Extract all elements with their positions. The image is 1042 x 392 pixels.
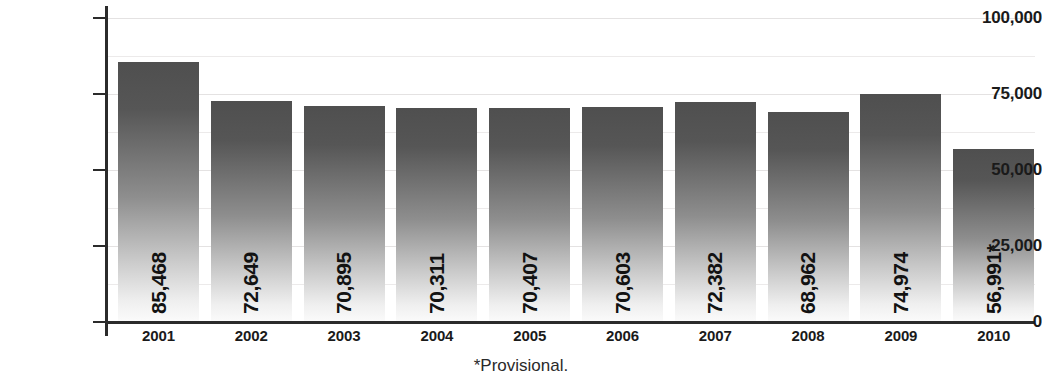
plot-area: 85,46872,64970,89570,31170,40770,60372,3… (107, 18, 1035, 322)
y-axis-tick (93, 169, 106, 171)
y-axis-tick (93, 321, 106, 323)
bar[interactable]: 68,962 (768, 112, 849, 322)
bar[interactable]: 74,974 (860, 94, 941, 322)
y-axis-tick-label: 100,000 (958, 9, 1042, 26)
x-axis-tick-label: 2010 (949, 328, 1039, 343)
bar[interactable]: 70,895 (304, 106, 385, 322)
x-axis-tick-label: 2004 (392, 328, 482, 343)
y-axis-tick (93, 245, 106, 247)
y-axis-tick-label: 50,000 (958, 161, 1042, 178)
x-axis-tick-label: 2006 (578, 328, 668, 343)
y-axis-tick-label: 25,000 (958, 237, 1042, 254)
y-axis-line (105, 6, 108, 336)
x-axis-line (107, 321, 1035, 324)
bar[interactable]: 72,649 (211, 101, 292, 322)
bar-chart: 85,46872,64970,89570,31170,40770,60372,3… (0, 0, 1042, 392)
x-axis-tick-label: 2002 (206, 328, 296, 343)
bar[interactable]: 70,603 (582, 107, 663, 322)
x-axis-tick-label: 2008 (763, 328, 853, 343)
x-axis-tick-label: 2001 (114, 328, 204, 343)
y-axis-tick (93, 93, 106, 95)
bar[interactable]: 70,311 (396, 108, 477, 322)
bar[interactable]: 85,468 (118, 62, 199, 322)
x-axis-tick-label: 2003 (299, 328, 389, 343)
gridline-major (107, 18, 1035, 19)
y-axis-tick (93, 17, 106, 19)
x-axis-tick (106, 322, 108, 335)
y-axis-tick-label: 75,000 (958, 85, 1042, 102)
bar[interactable]: 70,407 (489, 108, 570, 322)
bar[interactable]: 72,382 (675, 102, 756, 322)
footnote: *Provisional. (0, 357, 1042, 374)
gridline-minor (107, 56, 1035, 57)
x-axis-tick-label: 2009 (856, 328, 946, 343)
x-axis-tick-label: 2005 (485, 328, 575, 343)
x-axis-tick-label: 2007 (670, 328, 760, 343)
